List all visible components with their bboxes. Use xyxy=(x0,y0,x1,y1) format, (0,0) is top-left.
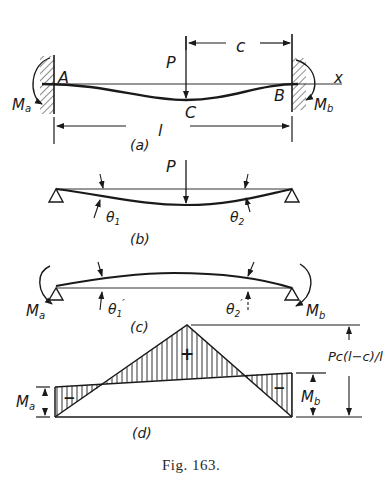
panel-d-moment-diagram: + − − Pc(l−c)/l Ma Mb (d) xyxy=(16,325,383,441)
label-moment-mb-d: Mb xyxy=(301,388,320,407)
label-theta1: θ1 xyxy=(106,209,120,227)
figure-canvas: P c A B C x l (a) Ma Mb P θ1 θ2 (b) xyxy=(0,0,391,492)
label-panel-b: (b) xyxy=(130,231,150,247)
panel-b-simple-beam-load: P θ1 θ2 (b) xyxy=(49,157,299,247)
pin-support-left xyxy=(49,189,63,202)
figure-caption: Fig. 163. xyxy=(162,457,220,473)
label-point-b: B xyxy=(274,86,285,105)
negative-sign-left: − xyxy=(63,389,76,407)
label-panel-c: (c) xyxy=(130,319,149,335)
label-dist-c: c xyxy=(236,36,246,56)
fixed-support-right xyxy=(292,34,306,112)
label-moment-ma: Ma xyxy=(12,96,31,114)
label-point-c: C xyxy=(185,103,197,122)
panel-a-fixed-beam: P c A B C x l (a) Ma Mb xyxy=(12,34,343,153)
label-moment-mb: Mb xyxy=(314,96,333,114)
panel-c-simple-beam-moments: θ1′ θ2′ Ma Mb (c) xyxy=(26,262,325,335)
label-theta1-prime: θ1′ xyxy=(108,297,125,319)
label-panel-a: (a) xyxy=(130,137,150,153)
label-theta2: θ2 xyxy=(230,209,245,227)
label-load-p: P xyxy=(166,53,176,72)
pin-support-right-c xyxy=(285,288,299,300)
label-load-p-b: P xyxy=(166,157,176,176)
label-theta2-prime: θ2′ xyxy=(226,297,243,319)
label-span-l: l xyxy=(158,121,163,140)
label-moment-ma-c: Ma xyxy=(26,302,45,321)
label-panel-d: (d) xyxy=(132,425,152,441)
pin-support-left-c xyxy=(49,288,63,300)
label-moment-mb-c: Mb xyxy=(306,302,325,321)
label-axis-x: x xyxy=(333,69,343,87)
negative-sign-right: − xyxy=(273,379,286,397)
deflected-beam-b xyxy=(56,189,292,205)
label-point-a: A xyxy=(57,68,69,87)
deflected-beam-a xyxy=(42,84,298,100)
label-peak-moment: Pc(l−c)/l xyxy=(328,349,383,364)
deflected-beam-c xyxy=(56,273,292,288)
label-moment-ma-d: Ma xyxy=(16,393,35,412)
positive-sign: + xyxy=(180,344,194,364)
